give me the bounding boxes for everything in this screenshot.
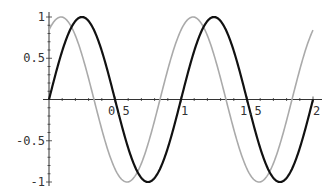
y-tick-label: -0.5 bbox=[16, 134, 45, 148]
chart: 0.511.5210.5-0.5-1 bbox=[0, 0, 327, 196]
y-tick-label: -1 bbox=[31, 175, 45, 189]
axes bbox=[43, 12, 322, 186]
x-tick-label: 2 bbox=[313, 104, 320, 118]
y-tick-label: 1 bbox=[38, 10, 45, 24]
x-tick-label: 1.5 bbox=[240, 104, 262, 118]
y-tick-label: 0.5 bbox=[23, 51, 45, 65]
x-tick-label: 1 bbox=[181, 104, 188, 118]
x-tick-label: 0.5 bbox=[108, 104, 130, 118]
